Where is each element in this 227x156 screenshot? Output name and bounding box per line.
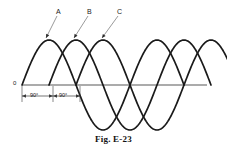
leader-line-c <box>102 16 118 38</box>
waveform-diagram <box>0 0 227 156</box>
dimension-label-90-second: 90° <box>59 93 67 99</box>
figure-caption: Fig. E-23 <box>0 134 227 145</box>
curve-label-b: B <box>87 8 92 15</box>
dimension-arrowhead <box>49 94 53 98</box>
figure-e-23: 0 A B C 90° 90° Fig. E-23 <box>0 0 227 156</box>
origin-label: 0 <box>13 80 16 86</box>
leader-lines-group <box>46 16 118 38</box>
dimension-arrowhead <box>22 94 26 98</box>
curve-label-a: A <box>56 8 61 15</box>
leader-arrowhead-b <box>74 34 78 38</box>
leader-line-b <box>74 16 88 38</box>
leader-arrowhead-c <box>102 34 106 38</box>
dimension-arrowhead <box>53 94 57 98</box>
curve-label-c: C <box>117 8 122 15</box>
dimension-label-90-first: 90° <box>30 93 38 99</box>
